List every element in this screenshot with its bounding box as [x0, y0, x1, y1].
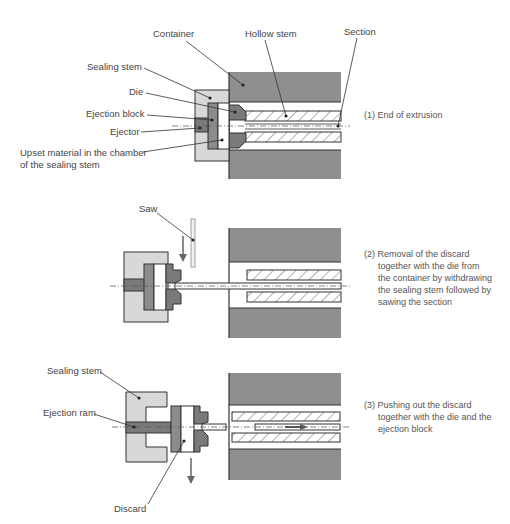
- stage-1-end-of-extrusion: Container Hollow stem Section Sealing st…: [20, 26, 443, 179]
- label-saw: Saw: [139, 203, 158, 214]
- hollow-stem: [232, 412, 340, 421]
- caption-stage-3: (3) Pushing out the discard together wit…: [364, 400, 492, 434]
- container: [229, 72, 341, 179]
- label-sealing-stem: Sealing stem: [87, 61, 142, 72]
- ejector: [124, 279, 146, 291]
- label-discard: Discard: [114, 503, 146, 514]
- label-ejector: Ejector: [110, 126, 140, 137]
- hollow-stem-lower: [247, 292, 341, 302]
- label-container: Container: [153, 28, 194, 39]
- ejection-block: [171, 406, 181, 452]
- caption-line: together with the die from: [378, 261, 480, 271]
- hollow-stem-lower: [245, 132, 341, 142]
- ejector: [195, 118, 208, 132]
- hollow-stem: [247, 270, 341, 280]
- down-arrow-icon: [187, 458, 195, 484]
- caption-line: the sealing stem followed by: [378, 285, 492, 295]
- caption-stage-1: (1) End of extrusion: [364, 110, 443, 120]
- stage-3-pushing-out-discard: Sealing stem Ejection ram Discard (3) Pu…: [43, 365, 492, 514]
- saw-blade: [191, 219, 195, 267]
- ejection-block: [144, 264, 154, 310]
- stage-2-removal-of-discard: Saw (2) Removal of the discard together …: [110, 203, 492, 338]
- discard: [154, 264, 166, 310]
- label-upset-material-2: of the sealing stem: [20, 159, 100, 170]
- caption-line: sawing the section: [378, 297, 452, 307]
- label-ejection-ram: Ejection ram: [43, 407, 96, 418]
- label-ejection-block: Ejection block: [86, 108, 145, 119]
- label-hollow-stem: Hollow stem: [245, 28, 297, 39]
- hollow-stem: [245, 111, 341, 121]
- caption-line: ejection block: [378, 424, 433, 434]
- label-sealing-stem: Sealing stem: [47, 365, 102, 376]
- discard: [181, 406, 194, 452]
- hollow-stem-lower: [232, 433, 340, 442]
- caption-line: (3) Pushing out the discard: [364, 400, 472, 410]
- caption-stage-2: (2) Removal of the discard together with…: [364, 249, 492, 307]
- label-die: Die: [129, 86, 143, 97]
- extrusion-process-diagram: Container Hollow stem Section Sealing st…: [0, 0, 510, 524]
- label-section: Section: [344, 26, 376, 37]
- down-arrow-icon: [179, 236, 187, 262]
- caption-line: together with the die and the: [378, 412, 492, 422]
- caption-line: (2) Removal of the discard: [364, 249, 470, 259]
- caption-line: the container by withdrawing: [378, 273, 492, 283]
- label-upset-material-1: Upset material in the chamber: [20, 147, 147, 158]
